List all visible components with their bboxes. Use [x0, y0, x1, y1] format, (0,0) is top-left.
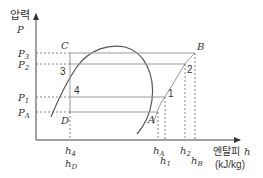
label-PA: PA	[17, 107, 30, 120]
label-hB: hB	[191, 155, 203, 168]
x-axis-label-symbol: h	[244, 146, 250, 157]
point-C: C	[61, 40, 69, 51]
point-4: 4	[74, 85, 80, 96]
x-axis-unit: (kJ/kg)	[215, 159, 245, 170]
label-hD: hD	[65, 158, 77, 171]
p-h-diagram: 압력 P 엔탈피 h (kJ/kg) P3 P2 P1 PA h4 hD	[0, 0, 263, 178]
y-axis-label-symbol: P	[16, 24, 24, 35]
label-h4: h4	[65, 145, 76, 158]
point-2: 2	[187, 64, 193, 75]
point-A: A	[147, 114, 155, 125]
y-axis-label-korean: 압력	[10, 9, 30, 21]
point-D: D	[60, 115, 69, 126]
x-axis-label-korean: 엔탈피	[213, 145, 240, 157]
point-B: B	[196, 41, 204, 52]
label-h1: h1	[160, 155, 171, 168]
point-1: 1	[168, 88, 174, 99]
label-h2: h2	[180, 145, 191, 158]
point-3: 3	[60, 66, 66, 77]
label-P1: P1	[17, 92, 29, 105]
